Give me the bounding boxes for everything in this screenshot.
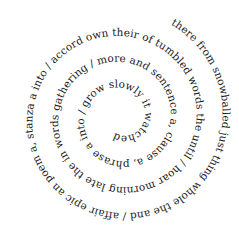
spiral-poem-svg: there from snowballed just thing whole t… (0, 0, 239, 235)
spiral-text-path: there from snowballed just thing whole t… (0, 0, 233, 223)
spiral-poem-canvas: there from snowballed just thing whole t… (0, 0, 239, 235)
spiral-poem-text: there from snowballed just thing whole t… (0, 0, 233, 223)
